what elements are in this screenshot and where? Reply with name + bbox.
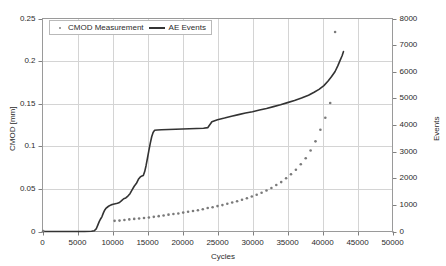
chart-plot-area: [0, 0, 446, 266]
y-axis-right-tick-label: 1000: [400, 200, 418, 209]
y-axis-left-tick-label: 0: [31, 227, 35, 236]
y-axis-right-tick-label: 6000: [400, 67, 418, 76]
series-cmod-measurement-points: [42, 31, 337, 233]
legend-label-ae-events: AE Events: [169, 23, 206, 32]
y-axis-left-tick-label: 0.2: [24, 56, 35, 65]
legend-item-cmod-measurement: CMOD Measurement: [55, 23, 144, 32]
y-axis-left-tick-label: 0.05: [20, 184, 36, 193]
chart-container: 00.050.10.150.20.25 01000200030004000500…: [0, 0, 446, 266]
y-axis-right-title: Events: [432, 117, 441, 141]
plot-frame: [43, 19, 393, 232]
y-axis-right-tick-label: 4000: [400, 120, 418, 129]
y-axis-right-tick-label: 3000: [400, 147, 418, 156]
line-marker-icon: [149, 27, 165, 29]
legend-item-ae-events: AE Events: [149, 23, 206, 32]
chart-legend: CMOD Measurement AE Events: [49, 20, 212, 35]
series-ae-events-line: [43, 52, 344, 232]
y-axis-right-tick-label: 7000: [400, 40, 418, 49]
y-axis-left-tick-label: 0.1: [24, 141, 35, 150]
y-axis-right-tick-label: 5000: [400, 93, 418, 102]
x-axis-title: Cycles: [0, 252, 446, 261]
y-axis-right-tick-label: 2000: [400, 173, 418, 182]
legend-label-cmod-measurement: CMOD Measurement: [68, 23, 144, 32]
dot-marker-icon: [55, 27, 64, 29]
y-axis-left-tick-label: 0.25: [20, 14, 36, 23]
y-axis-right-tick-label: 0: [400, 227, 404, 236]
y-axis-left-title: CMOD [mm]: [8, 107, 17, 151]
y-axis-right-tick-label: 8000: [400, 14, 418, 23]
y-axis-left-tick-label: 0.15: [20, 99, 36, 108]
gridlines: [43, 19, 393, 232]
x-axis-tick-label: 50000: [363, 238, 423, 247]
